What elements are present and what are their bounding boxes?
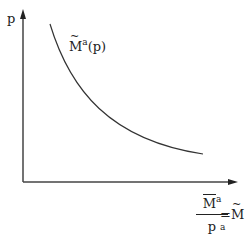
- y-axis-label: p: [7, 12, 15, 25]
- numerator-superscript: a: [216, 194, 221, 204]
- y-axis-arrow-icon: [20, 9, 26, 19]
- rhs-superscript: a: [220, 222, 225, 232]
- rhs-symbol: M: [231, 207, 244, 222]
- curve-label: Ma(p): [69, 38, 106, 53]
- y-axis-label-text: p: [7, 11, 15, 26]
- curve-label-symbol: M: [69, 40, 82, 53]
- x-axis-arrow-icon: [228, 179, 238, 185]
- curve-label-arg: (p): [88, 39, 106, 54]
- equals-sign: =: [220, 207, 231, 222]
- numerator-symbol: M: [203, 196, 216, 211]
- x-axis-label-equality: =Ma: [220, 207, 247, 239]
